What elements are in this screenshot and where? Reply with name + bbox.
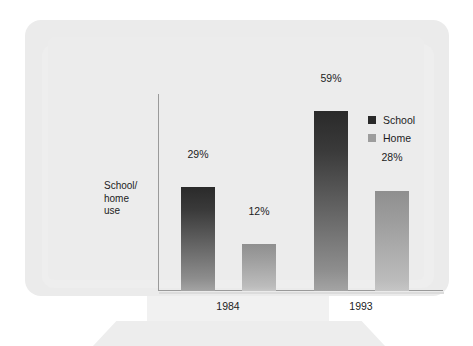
legend-label-school: School	[383, 114, 415, 126]
bar-chart: School/ home use 29% 12% 59% 28% 1984 19…	[96, 74, 472, 317]
bar-home-1984[interactable]	[242, 244, 276, 291]
screenshot-scene: School/ home use 29% 12% 59% 28% 1984 19…	[0, 0, 473, 346]
monitor-screen: School/ home use 29% 12% 59% 28% 1984 19…	[48, 37, 424, 280]
bar-home-1993[interactable]	[375, 191, 409, 291]
bar-label-home-1993: 28%	[370, 151, 414, 163]
bar-label-school-1993: 59%	[309, 72, 353, 84]
monitor-stand-base	[93, 321, 385, 346]
bar-school-1993[interactable]	[314, 111, 348, 291]
chart-legend: School Home	[368, 112, 415, 148]
legend-item-school[interactable]: School	[368, 112, 415, 127]
x-tick-1984: 1984	[206, 300, 250, 312]
bar-label-school-1984: 29%	[176, 148, 220, 160]
legend-swatch-home-icon	[368, 134, 376, 142]
x-tick-1993: 1993	[339, 300, 383, 312]
y-axis-label: School/ home use	[104, 180, 156, 218]
legend-swatch-school-icon	[368, 116, 376, 124]
legend-item-home[interactable]: Home	[368, 130, 415, 145]
x-axis-shadow	[159, 292, 444, 294]
y-axis-line	[158, 94, 159, 291]
bar-school-1984[interactable]	[181, 187, 215, 291]
legend-label-home: Home	[383, 132, 411, 144]
bar-label-home-1984: 12%	[237, 205, 281, 217]
